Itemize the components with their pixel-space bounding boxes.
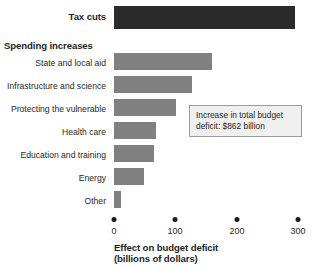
annotation-callout: Increase in total budget deficit: $862 b…: [189, 105, 302, 137]
category-label-education-and-training: Education and training: [0, 151, 110, 160]
x-tick-label-0: 0: [111, 227, 116, 236]
x-axis-title-line-2: (billions of dollars): [114, 253, 198, 265]
category-label-protecting-the-vulnerable: Protecting the vulnerable: [0, 105, 110, 114]
bar-infrastructure-and-science: [114, 76, 192, 93]
annotation-line-2: deficit: $862 billion: [196, 121, 296, 132]
category-label-infrastructure-and-science: Infrastructure and science: [0, 82, 110, 91]
x-tick-dot-300: [296, 217, 301, 222]
category-label-state-and-local-aid: State and local aid: [0, 59, 110, 68]
x-tick-dot-0: [112, 217, 117, 222]
x-tick-dot-100: [173, 217, 178, 222]
bar-tax-cuts: [114, 6, 295, 29]
x-tick-label-300: 300: [290, 227, 305, 236]
x-tick-dot-200: [235, 217, 240, 222]
x-tick-label-200: 200: [229, 227, 244, 236]
bar-energy: [114, 168, 144, 185]
bar-health-care: [114, 122, 156, 139]
bar-other: [114, 191, 121, 208]
category-label-health-care: Health care: [0, 128, 110, 137]
category-label-energy: Energy: [0, 174, 110, 183]
category-label-tax-cuts: Tax cuts: [0, 12, 110, 22]
x-tick-label-100: 100: [167, 227, 182, 236]
group-header-spending-increases: Spending increases: [4, 41, 93, 51]
bar-state-and-local-aid: [114, 53, 212, 70]
bar-protecting-the-vulnerable: [114, 99, 176, 116]
annotation-line-1: Increase in total budget: [196, 110, 296, 121]
x-axis-title-line-1: Effect on budget deficit: [114, 242, 218, 254]
bar-education-and-training: [114, 145, 154, 162]
category-label-other: Other: [0, 197, 110, 206]
budget-deficit-bar-chart: Tax cuts Spending increases State and lo…: [0, 0, 314, 270]
